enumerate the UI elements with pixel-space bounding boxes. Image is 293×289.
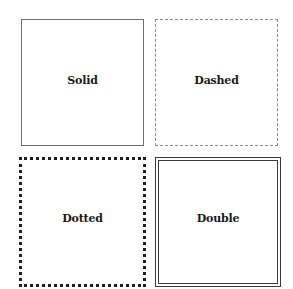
double-label: Double: [197, 212, 240, 225]
solid-border-box: Solid: [21, 19, 144, 146]
dashed-label: Dashed: [194, 74, 238, 87]
dotted-label: Dotted: [62, 212, 103, 225]
double-border-box: Double: [155, 157, 281, 287]
solid-label: Solid: [67, 74, 97, 87]
dotted-border-box: Dotted: [19, 157, 146, 287]
dashed-border-box: Dashed: [155, 19, 278, 146]
